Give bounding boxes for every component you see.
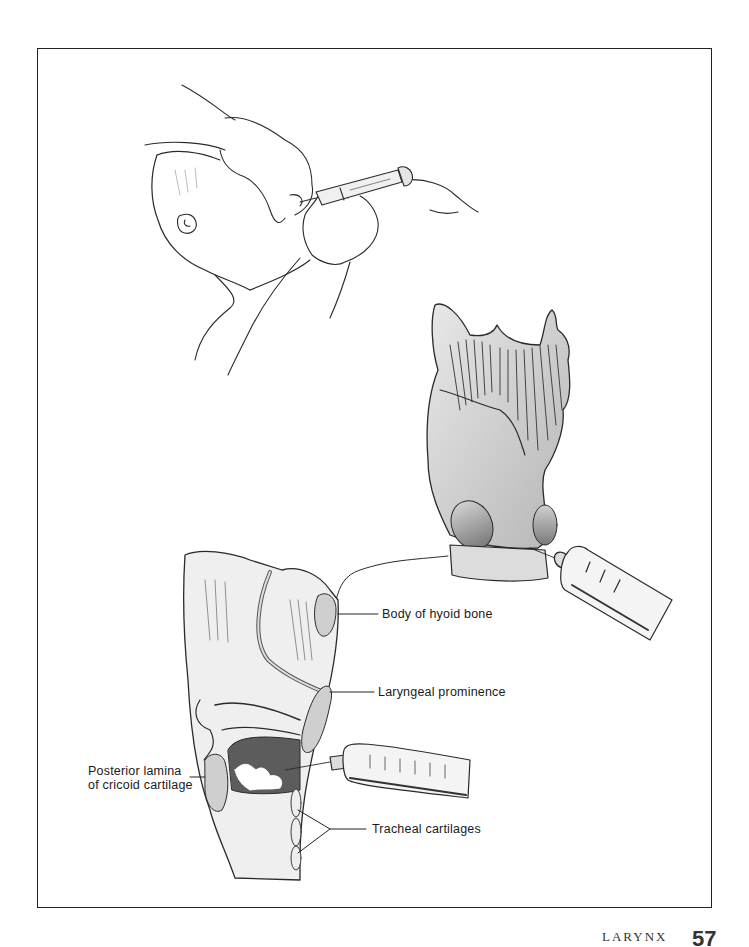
running-title: LARYNX bbox=[602, 929, 667, 945]
anatomical-illustration bbox=[0, 0, 749, 947]
larynx-external-view bbox=[336, 304, 672, 640]
patient-injection-scene bbox=[145, 85, 478, 375]
label-tracheal-cartilages: Tracheal cartilages bbox=[372, 822, 481, 836]
label-body-of-hyoid-bone: Body of hyoid bone bbox=[382, 607, 493, 621]
label-laryngeal-prominence: Laryngeal prominence bbox=[378, 685, 506, 699]
page-number: 57 bbox=[692, 926, 716, 947]
label-of-cricoid-cartilage: of cricoid cartilage bbox=[88, 778, 193, 792]
label-posterior-lamina: Posterior lamina bbox=[88, 764, 182, 778]
syringe-right bbox=[530, 546, 672, 640]
